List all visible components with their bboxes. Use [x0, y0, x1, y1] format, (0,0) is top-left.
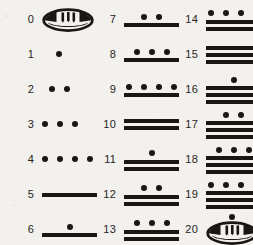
- numeral-label-18: 18: [164, 154, 206, 165]
- bar-glyph: [206, 163, 253, 167]
- numeral-entry-15: 15: [164, 37, 253, 72]
- numeral-entry-19: 19: [164, 177, 253, 212]
- numeral-label-0: 0: [0, 14, 42, 25]
- dot-glyph: [42, 156, 48, 162]
- dot-glyph: [72, 121, 78, 127]
- numeral-label-20: 20: [164, 224, 206, 235]
- dot-glyph: [156, 14, 162, 20]
- mayan-glyph-14: [206, 3, 253, 37]
- numeral-entry-18: 18: [164, 142, 253, 177]
- mayan-glyph-20: [206, 213, 253, 245]
- mayan-glyph-17: [206, 108, 253, 142]
- bar-glyph: [206, 27, 253, 31]
- dot-glyph: [156, 84, 162, 90]
- bar-glyph: [206, 20, 253, 24]
- dot-row: [208, 9, 253, 18]
- numeral-entry-14: 14: [164, 2, 253, 37]
- numeral-entry-20: 20: [164, 212, 253, 245]
- dot-glyph: [149, 220, 155, 226]
- numeral-label-1: 1: [0, 49, 42, 60]
- numeral-label-9: 9: [82, 84, 124, 95]
- numeral-label-4: 4: [0, 154, 42, 165]
- dot-row: [216, 145, 252, 154]
- mayan-glyph-2: [42, 73, 82, 107]
- dot-row: [141, 184, 162, 193]
- dot-row: [42, 120, 78, 129]
- mayan-glyph-18: [206, 143, 253, 177]
- mayan-glyph-15: [206, 38, 253, 72]
- numeral-entry-11: 11: [82, 142, 164, 177]
- bar-stack: [206, 20, 253, 31]
- numeral-label-3: 3: [0, 119, 42, 130]
- shell-glyph: [206, 214, 253, 245]
- bar-glyph: [206, 93, 253, 97]
- bar-glyph: [206, 156, 253, 160]
- dot-row: [49, 85, 70, 94]
- numeral-label-7: 7: [82, 14, 124, 25]
- numeral-label-10: 10: [82, 119, 124, 130]
- bar-glyph: [206, 121, 253, 125]
- numeral-label-12: 12: [82, 189, 124, 200]
- numeral-entry-9: 9: [82, 72, 164, 107]
- dot-glyph: [42, 121, 48, 127]
- dot-row: [67, 222, 73, 231]
- numeral-label-6: 6: [0, 224, 42, 235]
- dot-glyph: [72, 156, 78, 162]
- numeral-entry-17: 17: [164, 107, 253, 142]
- dot-glyph: [208, 182, 214, 188]
- dot-glyph: [246, 147, 252, 153]
- bar-glyph: [206, 170, 253, 174]
- numeral-label-2: 2: [0, 84, 42, 95]
- bar-glyph: [206, 86, 253, 90]
- dot-glyph: [141, 14, 147, 20]
- dot-glyph: [231, 77, 237, 83]
- numeral-entry-10: 10: [82, 107, 164, 142]
- bar-glyph: [206, 135, 253, 139]
- bar-glyph: [206, 100, 253, 104]
- bar-glyph: [206, 128, 253, 132]
- bar-glyph: [206, 198, 253, 202]
- dot-glyph: [208, 10, 214, 16]
- numeral-entry-0: 0: [0, 2, 82, 37]
- numeral-entry-16: 16: [164, 72, 253, 107]
- bar-stack: [206, 156, 253, 174]
- mayan-glyph-16: [206, 73, 253, 107]
- numeral-label-11: 11: [82, 154, 124, 165]
- numeral-label-14: 14: [164, 14, 206, 25]
- dot-row: [208, 180, 253, 189]
- dot-glyph: [223, 112, 229, 118]
- numeral-label-17: 17: [164, 119, 206, 130]
- numeral-label-16: 16: [164, 84, 206, 95]
- mayan-glyph-1: [42, 38, 82, 72]
- mayan-glyph-19: [206, 178, 253, 212]
- dot-row: [141, 12, 162, 21]
- mayan-numeral-chart: 07141815291631017411185121961320: [0, 0, 253, 245]
- bar-stack: [206, 86, 253, 104]
- numeral-entry-12: 12: [82, 177, 164, 212]
- dot-glyph: [231, 147, 237, 153]
- numeral-entry-1: 1: [0, 37, 82, 72]
- dot-glyph: [134, 49, 140, 55]
- dot-row: [56, 50, 62, 59]
- dot-glyph: [57, 156, 63, 162]
- shell-icon: [206, 221, 253, 245]
- bar-glyph: [206, 53, 253, 57]
- dot-glyph: [223, 10, 229, 16]
- dot-glyph: [216, 147, 222, 153]
- numeral-label-19: 19: [164, 189, 206, 200]
- dot-glyph: [134, 220, 140, 226]
- dot-glyph: [49, 86, 55, 92]
- dot-glyph: [238, 10, 244, 16]
- numeral-entry-3: 3: [0, 107, 82, 142]
- dot-glyph: [141, 185, 147, 191]
- numeral-entry-8: 8: [82, 37, 164, 72]
- numeral-label-13: 13: [82, 224, 124, 235]
- bar-glyph: [206, 205, 253, 209]
- dot-row: [149, 149, 155, 158]
- dot-glyph: [149, 49, 155, 55]
- numeral-entry-7: 7: [82, 2, 164, 37]
- dot-glyph: [67, 224, 73, 230]
- bar-stack: [206, 46, 253, 64]
- dot-glyph: [238, 112, 244, 118]
- dot-glyph: [149, 150, 155, 156]
